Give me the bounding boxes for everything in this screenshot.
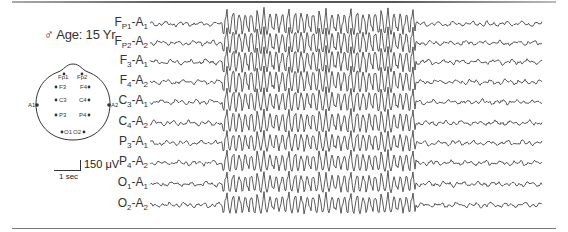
eeg-traces: [0, 0, 568, 232]
eeg-trace: [150, 171, 542, 193]
eeg-trace: [150, 65, 542, 93]
eeg-trace: [150, 150, 542, 172]
eeg-trace: [150, 108, 542, 132]
eeg-trace: [150, 46, 542, 73]
eeg-trace: [150, 7, 542, 34]
eeg-trace: [150, 27, 542, 54]
eeg-trace: [150, 130, 542, 151]
eeg-trace: [150, 192, 542, 214]
eeg-trace: [150, 87, 542, 112]
